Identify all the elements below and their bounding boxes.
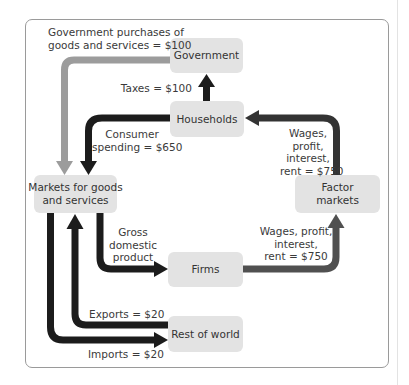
- government-purchases-label: Government purchases of goods and servic…: [48, 26, 168, 51]
- imports-label: Imports = $20: [88, 348, 164, 361]
- factor-markets-label: Factor markets: [316, 181, 359, 207]
- markets-goods-services-label: Markets for goods and services: [28, 181, 122, 207]
- households-node: Households: [170, 101, 244, 137]
- consumer-spending-label: Consumer spending = $650: [92, 128, 172, 153]
- households-label: Households: [176, 113, 237, 126]
- wages-from-firms-label: Wages, profit, interest, rent = $750: [256, 225, 336, 263]
- factor-markets-node: Factor markets: [295, 175, 380, 213]
- exports-label: Exports = $20: [89, 308, 164, 321]
- rest-of-world-node: Rest of world: [168, 316, 243, 352]
- wages-to-households-label: Wages, profit, interest, rent = $750: [280, 127, 336, 177]
- firms-node: Firms: [168, 252, 243, 287]
- taxes-arrow: [198, 74, 215, 101]
- rest-of-world-label: Rest of world: [171, 328, 240, 341]
- firms-label: Firms: [191, 263, 219, 276]
- markets-goods-services-node: Markets for goods and services: [34, 175, 117, 213]
- taxes-label: Taxes = $100: [118, 82, 192, 95]
- gdp-label: Gross domestic product: [108, 226, 158, 264]
